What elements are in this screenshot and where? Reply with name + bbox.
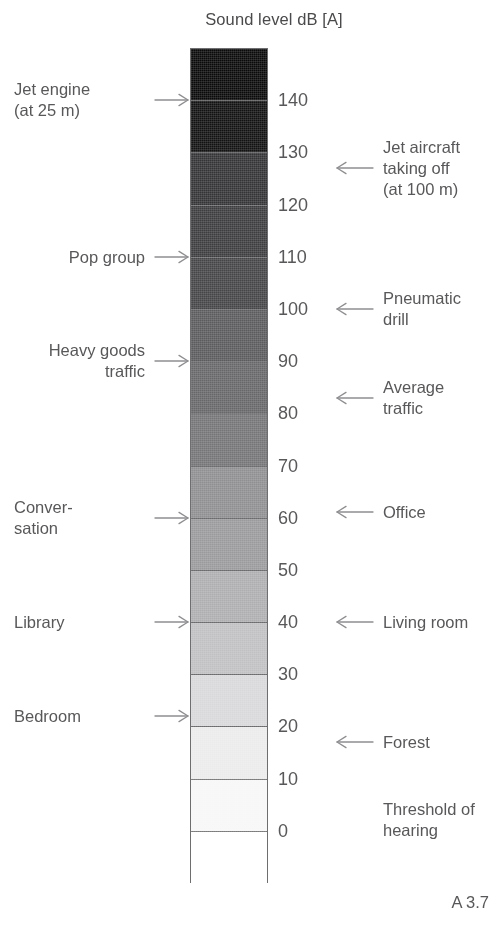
annotation-label-right: Forest (383, 732, 504, 753)
figure-caption: A 3.7 (0, 893, 489, 912)
annotation-arrow-left (337, 735, 373, 749)
scale-band (191, 153, 267, 205)
axis-tick-label: 10 (278, 770, 298, 788)
annotation-label-left: Library (14, 612, 145, 633)
scale-band (191, 832, 267, 884)
annotation-arrow-right (155, 511, 188, 525)
annotation-label-right: Threshold of hearing (383, 799, 504, 841)
scale-band (191, 414, 267, 466)
annotation-label-right: Office (383, 502, 504, 523)
scale-band (191, 727, 267, 779)
axis-tick-labels: 1401301201101009080706050403020100 (278, 0, 338, 934)
scale-band (191, 258, 267, 310)
axis-tick-label: 140 (278, 91, 308, 109)
axis-tick-label: 130 (278, 143, 308, 161)
annotation-label-right: Living room (383, 612, 504, 633)
annotation-arrow-right (155, 354, 188, 368)
annotation-arrow-left (337, 391, 373, 405)
annotation-label-left: Heavy goods traffic (14, 340, 145, 382)
axis-tick-label: 100 (278, 300, 308, 318)
scale-band (191, 780, 267, 832)
annotation-arrow-right (155, 250, 188, 264)
scale-band (191, 206, 267, 258)
scale-band (191, 675, 267, 727)
annotation-arrow-left (337, 615, 373, 629)
axis-tick-label: 0 (278, 822, 288, 840)
axis-tick-label: 50 (278, 561, 298, 579)
annotation-arrow-left (337, 302, 373, 316)
axis-tick-label: 110 (278, 248, 307, 266)
annotation-arrow-right (155, 615, 188, 629)
annotation-arrow-right (155, 93, 188, 107)
annotation-label-right: Jet aircraft taking off (at 100 m) (383, 137, 504, 200)
axis-tick-label: 70 (278, 457, 298, 475)
axis-tick-label: 80 (278, 404, 298, 422)
annotation-arrow-right (155, 709, 188, 723)
scale-band (191, 467, 267, 519)
annotation-label-left: Jet engine (at 25 m) (14, 79, 145, 121)
annotation-label-right: Average traffic (383, 377, 504, 419)
annotation-arrow-left (337, 505, 373, 519)
annotation-arrow-left (337, 161, 373, 175)
scale-band (191, 310, 267, 362)
annotation-label-left: Bedroom (14, 706, 145, 727)
scale-band (191, 623, 267, 675)
axis-tick-label: 90 (278, 352, 298, 370)
annotation-label-left: Pop group (14, 246, 145, 267)
axis-tick-label: 120 (278, 196, 308, 214)
annotation-label-left: Conver- sation (14, 497, 145, 539)
page-title: Sound level dB [A] (22, 10, 504, 29)
axis-tick-label: 40 (278, 613, 298, 631)
scale-band (191, 519, 267, 571)
axis-tick-label: 30 (278, 665, 298, 683)
sound-level-scale-bar (190, 48, 268, 883)
scale-band (191, 49, 267, 101)
scale-band (191, 571, 267, 623)
scale-band (191, 101, 267, 153)
axis-tick-label: 20 (278, 717, 298, 735)
axis-tick-label: 60 (278, 509, 298, 527)
annotation-label-right: Pneumatic drill (383, 288, 504, 330)
scale-band (191, 362, 267, 414)
